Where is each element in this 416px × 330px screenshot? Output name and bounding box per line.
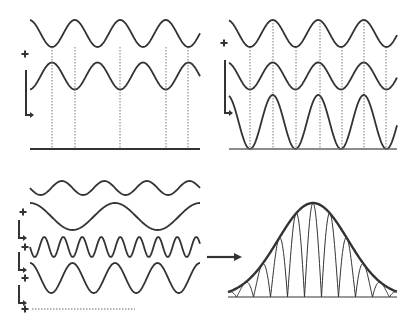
wave-a (30, 20, 200, 47)
panel-destructive-interference (22, 20, 201, 149)
arrowhead-icon (23, 267, 27, 273)
component-wave-2 (30, 203, 200, 230)
bracket-arrow-icon (26, 70, 31, 115)
component-wave-1 (30, 181, 200, 195)
panel-wave-packet (228, 203, 397, 297)
panel-fourier-components (19, 181, 200, 313)
arrow-icon (207, 253, 242, 261)
wave-b (229, 63, 397, 90)
bracket-arrow-icon (225, 60, 230, 113)
carrier-wave (228, 203, 397, 297)
arrowhead-icon (23, 235, 27, 241)
arrowhead-icon (23, 300, 27, 306)
component-wave-3 (30, 237, 200, 257)
arrowhead-icon (30, 112, 34, 118)
arrowhead-icon (229, 110, 233, 116)
component-wave-4 (30, 263, 200, 293)
wave-superposition-diagram (0, 0, 416, 330)
wave-a (229, 20, 397, 47)
wave-b (30, 63, 200, 90)
wave-sum (229, 95, 397, 149)
gaussian-envelope (228, 203, 397, 292)
arrowhead-icon (234, 253, 242, 261)
panel-constructive-interference (221, 20, 398, 149)
